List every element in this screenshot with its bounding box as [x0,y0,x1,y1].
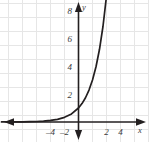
x-tick-label--2: –2 [59,127,70,137]
x-tick-label-4: 4 [118,127,123,137]
y-tick-label-4: 4 [68,62,73,72]
y-tick-label-6: 6 [68,34,73,44]
plot-area: –4 –2 2 4 2 4 6 8 y x [0,0,149,142]
x-tick-label-2: 2 [104,127,109,137]
x-axis-label: x [137,125,142,135]
y-tick-label-8: 8 [68,6,73,16]
y-tick-label-2: 2 [68,90,73,100]
x-tick-label--4: –4 [45,127,56,137]
y-axis-label: y [81,2,86,12]
exponential-function-graph: –4 –2 2 4 2 4 6 8 y x [0,0,149,142]
